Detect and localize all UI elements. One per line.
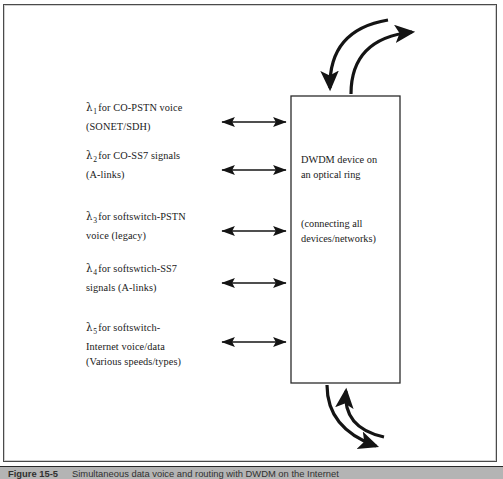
lambda-symbol-4: λ (86, 262, 93, 274)
figure-caption-band: Figure 15-5Simultaneous data voice and r… (0, 466, 503, 479)
figure-caption-label: Figure 15-5 (8, 468, 72, 479)
wavelength-label-5-line2: Internet voice/data (86, 339, 218, 354)
wavelength-label-5-line1: λ5for softswitch- (86, 320, 218, 339)
diagram-canvas (0, 0, 503, 479)
lambda-symbol-1: λ (86, 101, 93, 113)
wavelength-label-4: λ4for softswtich-SS7 signals (A-links) (86, 261, 218, 295)
wavelength-label-2-line1: λ2for CO-SS7 signals (86, 148, 218, 167)
wavelength-label-1: λ1for CO-PSTN voice (SONET/SDH) (86, 100, 218, 134)
ring-arrows-bottom (327, 385, 384, 446)
ring-arrow-top-outbound (351, 32, 412, 94)
lambda-symbol-5: λ (86, 321, 93, 333)
wavelength-label-4-line2: signals (A-links) (86, 280, 218, 295)
device-box-note-line1: (connecting all (301, 216, 399, 231)
figure-caption-text: Simultaneous data voice and routing with… (72, 468, 339, 479)
wavelength-label-1-text: for CO-PSTN voice (98, 102, 182, 113)
figure-caption: Figure 15-5Simultaneous data voice and r… (8, 468, 339, 479)
wavelength-label-3: λ3for softswitch-PSTN voice (legacy) (86, 209, 218, 243)
device-box-title-line2: an optical ring (301, 167, 399, 182)
device-box-note: (connecting all devices/networks) (301, 216, 399, 247)
ring-arrow-bottom-inbound (346, 391, 384, 437)
device-box-title-line1: DWDM device on (301, 152, 399, 167)
wavelength-label-2-text: for CO-SS7 signals (98, 150, 180, 161)
ring-arrow-top-inbound (330, 20, 388, 88)
wavelength-label-3-line1: λ3for softswitch-PSTN (86, 209, 218, 228)
device-box-title: DWDM device on an optical ring (301, 152, 399, 183)
figure-page: λ1for CO-PSTN voice (SONET/SDH) λ2for CO… (0, 0, 503, 479)
wavelength-label-3-text: for softswitch-PSTN (98, 211, 185, 222)
wavelength-label-5: λ5for softswitch- Internet voice/data (V… (86, 320, 218, 370)
lambda-symbol-2: λ (86, 149, 93, 161)
wavelength-label-1-line2: (SONET/SDH) (86, 119, 218, 134)
bidirectional-connectors (222, 122, 286, 342)
wavelength-label-5-text: for softswitch- (98, 322, 160, 333)
lambda-symbol-3: λ (86, 210, 93, 222)
device-box-note-line2: devices/networks) (301, 231, 399, 246)
wavelength-label-2-line2: (A-links) (86, 167, 218, 182)
wavelength-label-4-text: for softswtich-SS7 (98, 263, 177, 274)
wavelength-label-4-line1: λ4for softswtich-SS7 (86, 261, 218, 280)
ring-arrows-top (330, 20, 412, 94)
wavelength-label-3-line2: voice (legacy) (86, 228, 218, 243)
wavelength-label-5-line3: (Various speeds/types) (86, 354, 218, 369)
wavelength-label-1-line1: λ1for CO-PSTN voice (86, 100, 218, 119)
wavelength-label-2: λ2for CO-SS7 signals (A-links) (86, 148, 218, 182)
